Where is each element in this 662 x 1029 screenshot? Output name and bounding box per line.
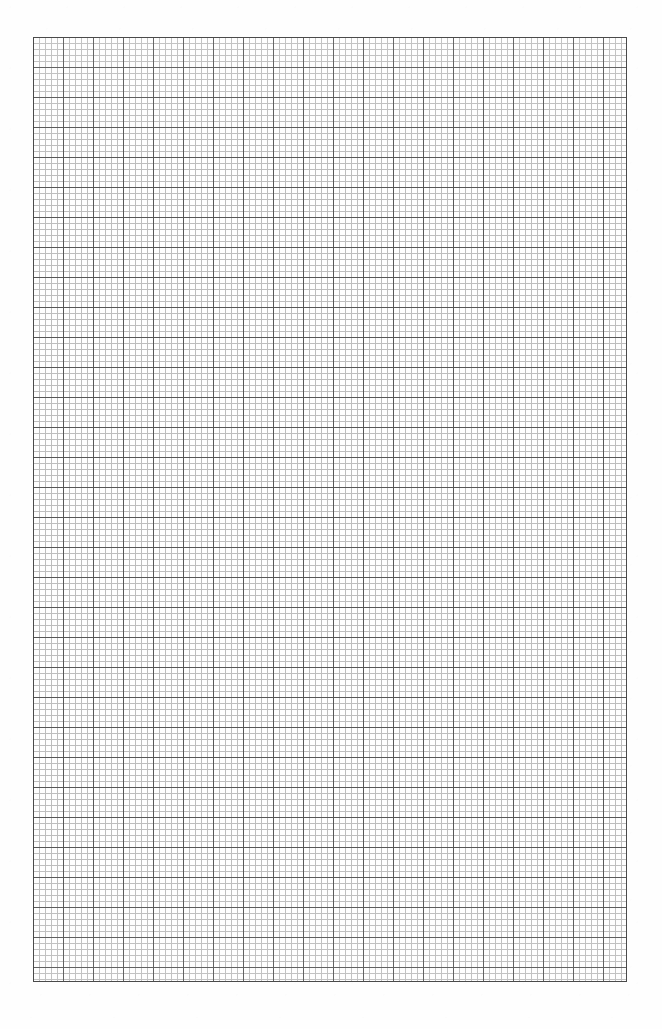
paper-sheet (0, 0, 662, 1029)
major-gridlines (33, 37, 627, 982)
graph-paper-grid (33, 37, 627, 982)
